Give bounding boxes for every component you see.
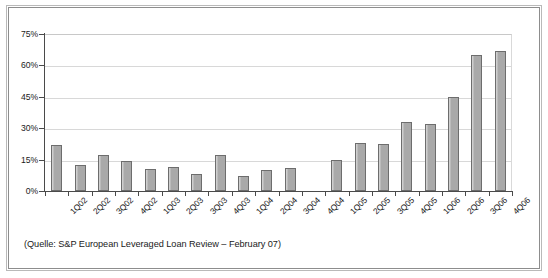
- x-axis-tick-label: 3Q02: [114, 195, 135, 216]
- x-axis-tick: [185, 191, 186, 196]
- bar: [448, 97, 459, 191]
- x-axis-tick-label: 4Q03: [231, 195, 252, 216]
- y-axis-tick: [39, 65, 45, 66]
- x-axis-tick: [279, 191, 280, 196]
- bar: [261, 170, 272, 191]
- y-axis-tick: [39, 128, 45, 129]
- x-axis-tick: [208, 191, 209, 196]
- x-axis-tick: [442, 191, 443, 196]
- x-axis-tick-label: 1Q06: [441, 195, 462, 216]
- x-axis-tick: [115, 191, 116, 196]
- y-axis-tick-labels: 0%15%30%45%60%75%: [0, 0, 38, 278]
- bar: [401, 122, 412, 191]
- bar: [425, 124, 436, 191]
- x-axis-tick-label: 2Q05: [371, 195, 392, 216]
- x-axis-tick: [489, 191, 490, 196]
- x-axis-tick: [372, 191, 373, 196]
- bar: [168, 167, 179, 191]
- chart-figure: 0%15%30%45%60%75% 1Q022Q023Q024Q021Q032Q…: [0, 0, 548, 278]
- x-axis-tick-label: 2Q02: [91, 195, 112, 216]
- x-axis-tick: [92, 191, 93, 196]
- y-axis-tick: [39, 34, 45, 35]
- bar: [191, 174, 202, 191]
- y-axis-tick-label: 0%: [4, 186, 38, 196]
- y-axis-tick-label: 45%: [4, 92, 38, 102]
- x-axis-tick: [302, 191, 303, 196]
- x-axis-tick-label: 1Q03: [161, 195, 182, 216]
- x-axis-tick: [138, 191, 139, 196]
- x-axis-tick-label: 2Q03: [184, 195, 205, 216]
- bar: [378, 144, 389, 191]
- y-axis-tick-label: 75%: [4, 29, 38, 39]
- x-axis-tick: [349, 191, 350, 196]
- y-axis-tick-label: 30%: [4, 123, 38, 133]
- bar: [285, 168, 296, 191]
- x-axis-tick: [255, 191, 256, 196]
- bar: [51, 145, 62, 191]
- y-axis-tick: [39, 160, 45, 161]
- x-axis-tick-labels: 1Q022Q023Q024Q021Q032Q033Q034Q031Q042Q04…: [45, 191, 512, 237]
- bars-layer: [45, 34, 512, 191]
- bar: [121, 161, 132, 191]
- x-axis-tick-label: 1Q05: [348, 195, 369, 216]
- y-axis-tick-label: 15%: [4, 155, 38, 165]
- bar: [355, 143, 366, 191]
- x-axis-tick: [512, 191, 513, 196]
- x-axis-tick-label: 3Q05: [394, 195, 415, 216]
- x-axis-tick-label: 1Q04: [254, 195, 275, 216]
- x-axis-tick: [325, 191, 326, 196]
- bar: [238, 176, 249, 191]
- y-axis-tick-label: 60%: [4, 60, 38, 70]
- x-axis-tick-label: 2Q04: [278, 195, 299, 216]
- x-axis-tick-label: 3Q03: [208, 195, 229, 216]
- bar: [495, 51, 506, 191]
- x-axis-tick-label: 1Q02: [68, 195, 89, 216]
- x-axis-tick-label: 4Q04: [324, 195, 345, 216]
- y-axis-tick: [39, 97, 45, 98]
- x-axis-tick-label: 4Q05: [418, 195, 439, 216]
- x-axis-tick-label: 4Q02: [138, 195, 159, 216]
- x-axis-tick: [465, 191, 466, 196]
- x-axis-tick-label: 3Q04: [301, 195, 322, 216]
- x-axis-tick: [232, 191, 233, 196]
- x-axis-tick: [419, 191, 420, 196]
- x-axis-tick: [45, 191, 46, 196]
- bar: [331, 160, 342, 191]
- x-axis-tick-label: 2Q06: [465, 195, 486, 216]
- bar: [215, 155, 226, 191]
- bar: [75, 165, 86, 191]
- source-note: (Quelle: S&P European Leveraged Loan Rev…: [24, 239, 281, 249]
- x-axis-tick: [68, 191, 69, 196]
- bar: [471, 55, 482, 191]
- x-axis-tick: [395, 191, 396, 196]
- x-axis-tick-label: 3Q06: [488, 195, 509, 216]
- bar: [145, 169, 156, 191]
- bar: [98, 155, 109, 191]
- x-axis-tick: [162, 191, 163, 196]
